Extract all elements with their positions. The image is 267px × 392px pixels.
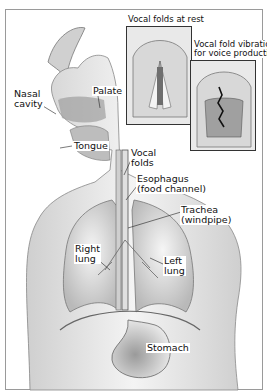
label-esophagus-line2: (food channel) bbox=[137, 184, 206, 194]
label-trachea: Trachea (windpipe) bbox=[180, 205, 232, 225]
inset-vocal-folds-vibration bbox=[190, 60, 256, 151]
label-trachea-line2: (windpipe) bbox=[181, 215, 231, 225]
vocal-folds-rest-illustration bbox=[127, 27, 192, 125]
inset-vocal-folds-rest bbox=[126, 26, 192, 125]
label-stomach: Stomach bbox=[146, 343, 190, 353]
label-right-lung: Right lung bbox=[74, 244, 101, 264]
inset-vibration-title: Vocal fold vibration for voice productio… bbox=[194, 40, 267, 58]
inset-vibration-title-line2: for voice production bbox=[194, 49, 267, 58]
label-left-lung: Left lung bbox=[163, 256, 186, 276]
label-esophagus: Esophagus (food channel) bbox=[136, 174, 207, 194]
label-palate: Palate bbox=[92, 86, 123, 96]
inset-rest-title: Vocal folds at rest bbox=[128, 15, 204, 24]
label-right-lung-line2: lung bbox=[75, 254, 100, 264]
label-tongue: Tongue bbox=[73, 141, 109, 151]
vocal-folds-vibration-illustration bbox=[191, 61, 256, 151]
label-vocal-folds-line2: folds bbox=[131, 158, 156, 168]
label-nasal-cavity: Nasal cavity bbox=[13, 89, 44, 109]
label-left-lung-line2: lung bbox=[164, 266, 185, 276]
label-vocal-folds: Vocal folds bbox=[130, 148, 157, 168]
label-nasal-cavity-line2: cavity bbox=[14, 99, 43, 109]
